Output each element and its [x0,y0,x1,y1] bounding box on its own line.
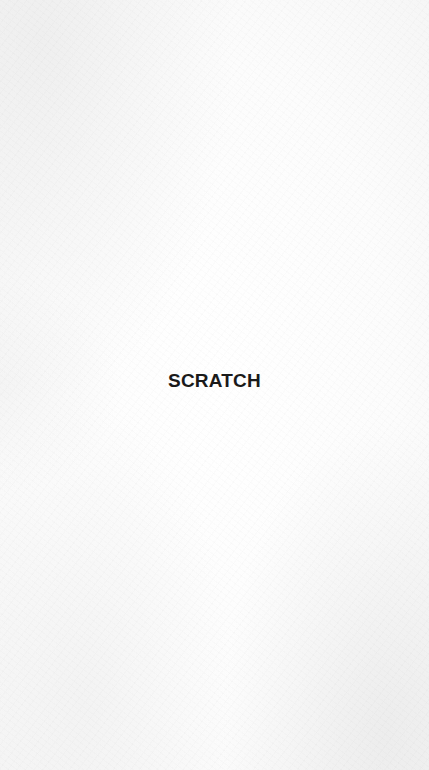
scratch-label: SCRATCH [0,370,429,392]
scratch-screen[interactable]: SCRATCH [0,0,429,770]
